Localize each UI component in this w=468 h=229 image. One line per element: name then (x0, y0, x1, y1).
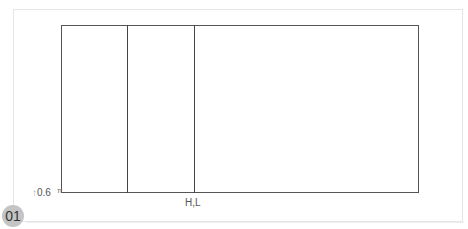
axis-value: 0.6 (37, 187, 51, 198)
divider-line-1 (127, 25, 128, 193)
diagram-rectangle (61, 25, 419, 193)
figure-number-badge: 01 (2, 205, 24, 227)
tick-mark-icon: π (57, 187, 63, 195)
axis-tick-label: ↑0.6 (32, 188, 51, 198)
bottom-label: H,L (185, 198, 201, 208)
divider-line-2 (194, 25, 195, 193)
badge-underline (26, 222, 464, 223)
